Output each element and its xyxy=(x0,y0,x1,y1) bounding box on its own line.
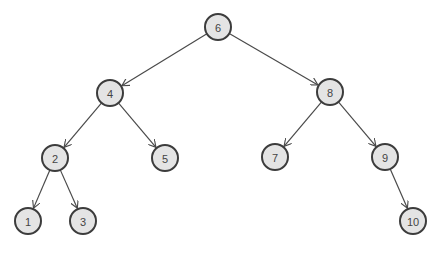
node-label: 2 xyxy=(52,153,58,165)
edge-8-to-9 xyxy=(338,102,376,146)
tree-node-7: 7 xyxy=(262,144,288,170)
edge-6-to-4 xyxy=(122,34,207,86)
node-label: 5 xyxy=(162,153,168,165)
tree-node-5: 5 xyxy=(152,145,178,171)
tree-node-3: 3 xyxy=(70,208,96,234)
edge-4-to-5 xyxy=(118,103,156,147)
tree-node-1: 1 xyxy=(15,208,41,234)
node-label: 1 xyxy=(25,216,31,228)
node-label: 6 xyxy=(215,22,221,34)
edge-8-to-7 xyxy=(284,102,322,146)
binary-tree-diagram: 64825791310 xyxy=(0,0,440,253)
edge-4-to-2 xyxy=(64,103,102,147)
tree-node-4: 4 xyxy=(97,80,123,106)
node-label: 8 xyxy=(327,87,333,99)
node-label: 10 xyxy=(407,216,419,228)
tree-node-9: 9 xyxy=(372,144,398,170)
nodes-layer: 64825791310 xyxy=(15,14,426,234)
node-label: 9 xyxy=(382,152,388,164)
node-label: 3 xyxy=(80,216,86,228)
node-label: 4 xyxy=(107,88,113,100)
edge-9-to-10 xyxy=(390,169,407,208)
edge-2-to-3 xyxy=(60,170,77,208)
tree-node-6: 6 xyxy=(205,14,231,40)
edge-6-to-8 xyxy=(229,34,318,85)
edges-layer xyxy=(34,34,408,209)
edge-2-to-1 xyxy=(34,170,50,208)
tree-node-8: 8 xyxy=(317,79,343,105)
node-label: 7 xyxy=(272,152,278,164)
tree-node-10: 10 xyxy=(400,208,426,234)
tree-node-2: 2 xyxy=(42,145,68,171)
